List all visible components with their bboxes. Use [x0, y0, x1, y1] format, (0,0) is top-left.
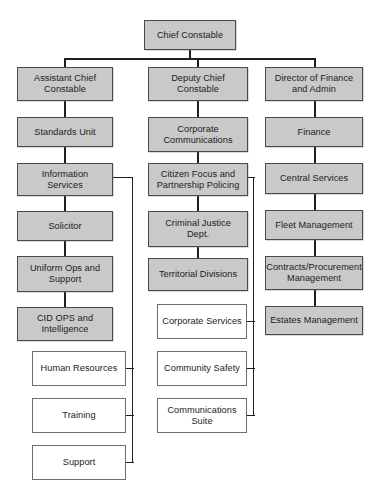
connector-mid-branch-communications-suite	[247, 415, 255, 416]
node-label: Estates Management	[270, 315, 358, 326]
connector-right-1	[314, 101, 316, 117]
node-support[interactable]: Support	[32, 445, 126, 480]
node-assistant-chief-constable[interactable]: Assistant Chief Constable	[17, 67, 113, 101]
node-label: Central Services	[280, 173, 348, 184]
node-label: Human Resources	[41, 363, 118, 374]
connector-mid-branch-community-safety	[247, 368, 255, 369]
connector-right-4	[314, 240, 316, 256]
node-label: Deputy Chief Constable	[171, 73, 225, 94]
connector-right-3	[314, 194, 316, 210]
connector-bus-to-assistant	[64, 58, 66, 67]
node-label: Chief Constable	[157, 30, 223, 41]
connector-left-branch-hr	[126, 368, 134, 369]
node-cid-ops-and-intelligence[interactable]: CID OPS and Intelligence	[17, 307, 113, 341]
connector-mid-branch-bus	[253, 177, 254, 416]
node-finance[interactable]: Finance	[265, 117, 363, 147]
node-information-services[interactable]: Information Services	[17, 163, 113, 196]
node-label: Criminal Justice Dept.	[165, 218, 231, 239]
node-label: CID OPS and Intelligence	[37, 313, 93, 334]
node-corporate-services[interactable]: Corporate Services	[157, 304, 247, 339]
node-solicitor[interactable]: Solicitor	[17, 211, 113, 241]
node-human-resources[interactable]: Human Resources	[32, 351, 126, 386]
node-label: Communications Suite	[167, 405, 236, 426]
node-standards-unit[interactable]: Standards Unit	[17, 117, 113, 147]
connector-right-5	[314, 290, 316, 306]
node-territorial-divisions[interactable]: Territorial Divisions	[148, 258, 248, 291]
node-director-of-finance-and-admin[interactable]: Director of Finance and Admin	[265, 67, 363, 101]
node-central-services[interactable]: Central Services	[265, 163, 363, 194]
node-label: Corporate Services	[162, 316, 242, 327]
node-label: Corporate Communications	[163, 124, 232, 145]
node-label: Assistant Chief Constable	[34, 73, 96, 94]
connector-left-3	[64, 196, 66, 211]
connector-bus-to-director	[314, 58, 316, 67]
node-uniform-ops-and-support[interactable]: Uniform Ops and Support	[17, 256, 113, 292]
node-label: Contracts/Procurement Management	[266, 262, 362, 283]
node-contracts-procurement-management[interactable]: Contracts/Procurement Management	[265, 256, 363, 290]
connector-mid-2	[197, 152, 199, 163]
node-label: Citizen Focus and Partnership Policing	[157, 169, 240, 190]
node-label: Territorial Divisions	[159, 269, 237, 280]
node-label: Finance	[297, 127, 330, 138]
node-label: Director of Finance and Admin	[275, 73, 354, 94]
connector-left-1	[64, 101, 66, 117]
node-criminal-justice-dept[interactable]: Criminal Justice Dept.	[148, 211, 248, 247]
node-estates-management[interactable]: Estates Management	[265, 306, 363, 335]
org-chart: Chief Constable Assistant Chief Constabl…	[0, 0, 378, 491]
node-label: Fleet Management	[275, 220, 352, 231]
connector-bus-to-deputy	[197, 58, 199, 67]
node-chief-constable[interactable]: Chief Constable	[144, 20, 236, 50]
node-label: Solicitor	[48, 221, 81, 232]
node-fleet-management[interactable]: Fleet Management	[265, 210, 363, 240]
node-label: Standards Unit	[34, 127, 95, 138]
node-citizen-focus-and-partnership-policing[interactable]: Citizen Focus and Partnership Policing	[148, 163, 248, 196]
connector-right-2	[314, 147, 316, 163]
node-label: Community Safety	[164, 363, 240, 374]
connector-left-5	[64, 292, 66, 307]
connector-mid-branch-corporate-services	[247, 321, 255, 322]
connector-left-branch-training	[126, 415, 134, 416]
connector-mid-3	[197, 196, 199, 211]
node-deputy-chief-constable[interactable]: Deputy Chief Constable	[148, 67, 248, 101]
connector-left-2	[64, 147, 66, 163]
node-label: Support	[63, 457, 96, 468]
connector-left-4	[64, 241, 66, 256]
connector-left-branch-stub	[113, 177, 133, 178]
connector-top-bus	[64, 58, 315, 60]
connector-mid-1	[197, 101, 199, 117]
node-training[interactable]: Training	[32, 398, 126, 433]
node-communications-suite[interactable]: Communications Suite	[157, 398, 247, 433]
node-corporate-communications[interactable]: Corporate Communications	[148, 117, 248, 152]
connector-mid-4	[197, 247, 199, 258]
connector-left-branch-bus	[132, 177, 133, 463]
node-label: Uniform Ops and Support	[30, 263, 100, 284]
connector-left-branch-support	[126, 462, 134, 463]
node-label: Training	[62, 410, 95, 421]
node-label: Information Services	[42, 169, 89, 190]
node-community-safety[interactable]: Community Safety	[157, 351, 247, 386]
